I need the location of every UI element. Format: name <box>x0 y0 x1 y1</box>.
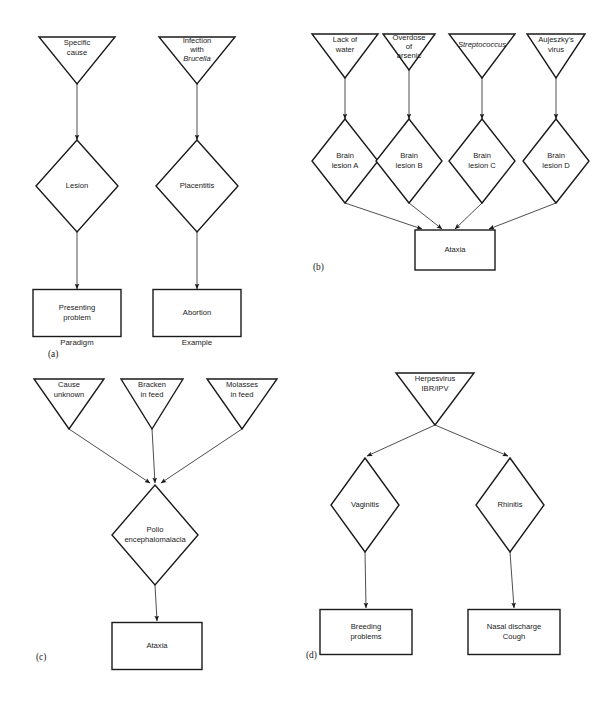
node-label: Breeding <box>351 622 381 631</box>
node-nasal-discharge-cough[interactable]: Nasal dischargeCough <box>468 610 560 655</box>
node-label: Placentitis <box>180 181 215 190</box>
panel-label-c: (c) <box>36 652 46 663</box>
node-label: in feed <box>231 390 254 399</box>
node-label: Lesion <box>66 181 88 190</box>
node-label: Brucella <box>183 54 210 63</box>
arrow-converge-b <box>455 203 482 229</box>
node-streptococcus[interactable]: Streptococcus <box>449 34 515 78</box>
node-label: Specific <box>64 38 91 47</box>
node-ataxia[interactable]: Ataxia <box>112 623 202 670</box>
node-label: Molasses <box>226 380 258 389</box>
node-label: lesion A <box>332 161 360 170</box>
node-presenting-problem[interactable]: Presentingproblem <box>33 290 121 337</box>
node-label: Cause <box>58 380 80 389</box>
node-label: lesion D <box>542 161 570 170</box>
node-infection-with-brucella[interactable]: InfectionwithBrucella <box>159 36 235 84</box>
node-abortion[interactable]: Abortion <box>153 290 241 337</box>
node-label: Abortion <box>183 308 211 317</box>
node-label: cause <box>67 48 87 57</box>
node-label: Herpesvirus <box>415 374 456 383</box>
node-brain-lesion-b[interactable]: Brainlesion B <box>376 119 442 203</box>
node-label: Brain <box>473 151 491 160</box>
arrow-diverge-d <box>435 425 508 456</box>
node-label: Brain <box>547 151 565 160</box>
node-label: Rhinitis <box>498 500 523 509</box>
node-label: with <box>189 45 204 54</box>
arrow-diverge-d <box>367 425 435 456</box>
node-label: Brain <box>336 151 354 160</box>
node-label: Ataxia <box>444 245 466 254</box>
node-label: of <box>406 42 413 51</box>
node-label: in feed <box>141 390 164 399</box>
arrow-converge-b <box>345 203 422 229</box>
node-label: lesion C <box>468 161 496 170</box>
node-herpesvirus-ibr-ipv[interactable]: HerpesvirusIBR/IPV <box>396 373 474 425</box>
arrow-converge-b <box>489 203 556 229</box>
panel-label-a: (a) <box>48 349 58 360</box>
node-label: Streptococcus <box>458 40 506 49</box>
node-label: Polio <box>147 525 164 534</box>
node-cause-unknown[interactable]: Causeunknown <box>34 379 104 429</box>
node-label: Aujeszky's <box>538 35 574 44</box>
node-breeding-problems[interactable]: Breedingproblems <box>320 610 412 655</box>
arrow-down-c <box>155 585 157 621</box>
node-polio-encephalomalacia[interactable]: Polioencephalomalacia <box>112 485 198 585</box>
node-bracken-in-feed[interactable]: Brackenin feed <box>121 379 183 429</box>
caption-example: Example <box>182 338 212 347</box>
node-label: IBR/IPV <box>421 384 449 393</box>
arrow-down-d <box>365 552 366 608</box>
node-ataxia[interactable]: Ataxia <box>415 230 495 270</box>
arrow-down-d <box>510 552 514 608</box>
node-label: Presenting <box>59 303 95 312</box>
node-lesion[interactable]: Lesion <box>36 140 118 232</box>
node-label: encephalomalacia <box>124 535 186 544</box>
causal-diagram-figure: SpecificcauseLesionPresentingproblemPara… <box>0 0 608 701</box>
arrow-converge-b <box>409 203 442 229</box>
node-vaginitis[interactable]: Vaginitis <box>331 458 399 552</box>
node-lack-of-water[interactable]: Lack ofwater <box>312 34 378 78</box>
node-label: problems <box>350 632 381 641</box>
node-brain-lesion-c[interactable]: Brainlesion C <box>449 119 515 203</box>
arrow-converge-c <box>161 429 242 483</box>
node-brain-lesion-d[interactable]: Brainlesion D <box>523 119 589 203</box>
node-molasses-in-feed[interactable]: Molassesin feed <box>207 379 277 429</box>
node-label: problem <box>63 313 90 322</box>
arrow-converge-c <box>152 429 155 483</box>
panel-label-d: (d) <box>306 650 317 661</box>
node-label: Vaginitis <box>351 500 379 509</box>
node-label: Brain <box>400 151 418 160</box>
node-label: water <box>335 45 355 54</box>
node-aujeszky-s-virus[interactable]: Aujeszky'svirus <box>527 34 585 78</box>
caption-paradigm: Paradigm <box>60 338 93 347</box>
node-label: Infection <box>183 36 212 45</box>
node-label: Cough <box>503 632 525 641</box>
node-label: arsenic <box>397 51 422 60</box>
node-placentitis[interactable]: Placentitis <box>156 140 238 232</box>
node-label: lesion B <box>395 161 422 170</box>
node-label: Lack of <box>333 35 358 44</box>
node-rhinitis[interactable]: Rhinitis <box>476 458 544 552</box>
node-label: Ataxia <box>146 641 168 650</box>
node-brain-lesion-a[interactable]: Brainlesion A <box>312 119 378 203</box>
node-specific-cause[interactable]: Specificcause <box>39 37 115 84</box>
node-label: virus <box>548 45 564 54</box>
node-label: Bracken <box>138 380 166 389</box>
node-label: Nasal discharge <box>487 622 541 631</box>
node-overdose-of-arsenic[interactable]: Overdoseofarsenic <box>383 33 435 70</box>
node-label: Overdose <box>393 33 426 42</box>
panel-label-b: (b) <box>313 262 324 273</box>
arrow-converge-c <box>69 429 150 483</box>
node-label: unknown <box>54 390 84 399</box>
